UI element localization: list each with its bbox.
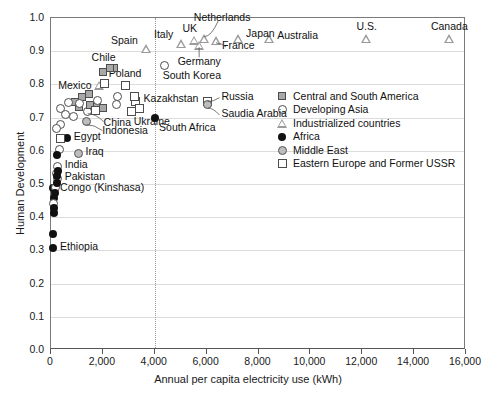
data-point[interactable] [50, 209, 58, 217]
point-label: Iraq [86, 146, 104, 157]
x-tick [309, 349, 310, 354]
legend-marker-icon [276, 144, 288, 156]
y-gridline [51, 217, 464, 218]
legend-label: Eastern Europe and Former USSR [293, 157, 455, 169]
legend-marker-icon [276, 158, 288, 170]
legend-marker-icon [276, 131, 288, 143]
data-point-canada[interactable] [444, 34, 454, 43]
legend-label: Middle East [293, 144, 348, 156]
point-label: France [222, 40, 255, 51]
x-tick [154, 349, 155, 354]
y-tick-label: 0.0 [0, 344, 44, 354]
data-point[interactable] [53, 151, 61, 159]
y-tick-label: 0.2 [0, 278, 44, 288]
data-point-indonesia[interactable] [82, 117, 91, 126]
data-point[interactable] [64, 98, 73, 107]
point-label: Italy [154, 29, 173, 40]
y-tick-label: 0.7 [0, 112, 44, 122]
point-label: India [65, 159, 88, 170]
data-point[interactable] [91, 106, 100, 115]
legend-item-developing-asia[interactable]: Developing Asia [276, 103, 455, 115]
point-label: Egypt [74, 131, 101, 142]
legend-marker-icon [276, 90, 288, 102]
x-tick [413, 349, 414, 354]
point-label: Russia [221, 91, 253, 102]
y-tick-label: 0.3 [0, 244, 44, 254]
point-label: Indonesia [102, 125, 148, 136]
point-label: Ethiopia [60, 241, 98, 252]
data-point[interactable] [130, 92, 139, 101]
y-tick-label: 0.5 [0, 178, 44, 188]
y-tick-label: 0.1 [0, 311, 44, 321]
point-label: Spain [111, 35, 138, 46]
y-gridline [51, 84, 464, 85]
scatter-chart: Human Development Annual per capita elec… [0, 0, 496, 398]
y-tick-label: 1.0 [0, 12, 44, 22]
point-label: U.S. [356, 21, 376, 32]
data-point-u-s[interactable] [361, 34, 371, 43]
legend-item-africa[interactable]: Africa [276, 130, 455, 142]
data-point[interactable] [53, 179, 61, 187]
data-point-poland[interactable] [121, 81, 130, 90]
point-label: Canada [431, 21, 468, 32]
y-tick-label: 0.9 [0, 45, 44, 55]
reference-line-4000 [155, 18, 156, 348]
y-gridline [51, 284, 464, 285]
x-tick [258, 349, 259, 354]
x-tick [102, 349, 103, 354]
y-gridline [51, 250, 464, 251]
data-point-spain[interactable] [141, 44, 151, 53]
data-point-uk[interactable] [189, 36, 199, 45]
point-label: Chile [92, 52, 116, 63]
data-point[interactable] [52, 124, 61, 133]
x-axis-title: Annual per capita electricity use (kWh) [0, 373, 496, 385]
data-point-italy[interactable] [176, 39, 186, 48]
chart-legend: Central and South AmericaDeveloping Asia… [276, 90, 455, 171]
legend-item-middle-east[interactable]: Middle East [276, 144, 455, 156]
point-label: Netherlands [194, 12, 251, 23]
point-label: Australia [277, 30, 318, 41]
point-label: Congo (Kinshasa) [60, 182, 144, 193]
data-point-iraq[interactable] [74, 149, 83, 158]
data-point[interactable] [99, 104, 107, 112]
legend-item-eastern-europe-fsu[interactable]: Eastern Europe and Former USSR [276, 157, 455, 169]
point-label: Japan [246, 28, 275, 39]
y-tick-label: 0.4 [0, 211, 44, 221]
legend-item-industrialized[interactable]: Industrialized countries [276, 117, 455, 129]
y-tick-label: 0.6 [0, 145, 44, 155]
data-point[interactable] [135, 104, 144, 113]
data-point-ethiopia[interactable] [49, 244, 57, 252]
legend-label: Central and South America [293, 90, 419, 102]
x-tick [206, 349, 207, 354]
x-tick-label: 16,000 [435, 356, 495, 367]
point-label: Kazakhstan [144, 93, 199, 104]
legend-item-central-south-america[interactable]: Central and South America [276, 90, 455, 102]
data-point[interactable] [56, 134, 65, 143]
data-point-france[interactable] [211, 36, 221, 45]
legend-label: Developing Asia [293, 103, 368, 115]
data-point[interactable] [99, 68, 107, 76]
x-tick [361, 349, 362, 354]
point-label: South Korea [163, 70, 221, 81]
x-tick [50, 349, 51, 354]
point-label: UK [182, 23, 197, 34]
x-tick [465, 349, 466, 354]
point-label: Germany [178, 56, 221, 67]
point-label: Saudia Arabia [221, 108, 286, 119]
y-tick-label: 0.8 [0, 78, 44, 88]
legend-label: Africa [293, 130, 320, 142]
legend-label: Industrialized countries [293, 117, 400, 129]
y-gridline [51, 317, 464, 318]
data-point[interactable] [69, 112, 78, 121]
data-point[interactable] [100, 79, 109, 88]
